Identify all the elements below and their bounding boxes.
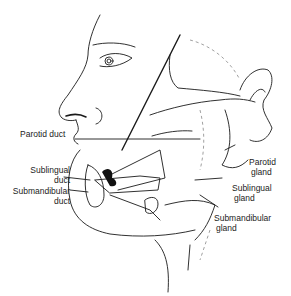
label-sublingual-gland: Sublingual gland bbox=[232, 183, 272, 203]
face-profile bbox=[59, 15, 100, 121]
label-parotid-duct: Parotid duct bbox=[20, 129, 65, 139]
anatomy-diagram: Parotid duct Sublingual duct Submandibul… bbox=[0, 0, 291, 296]
label-submandibular-duct: Submandibular duct bbox=[8, 186, 70, 206]
label-submandibular-gland: Submandibular gland bbox=[214, 213, 271, 233]
label-sublingual-duct: Sublingual duct bbox=[30, 165, 70, 185]
head-illustration bbox=[0, 0, 291, 296]
label-parotid-gland: Parotid gland bbox=[249, 157, 276, 177]
